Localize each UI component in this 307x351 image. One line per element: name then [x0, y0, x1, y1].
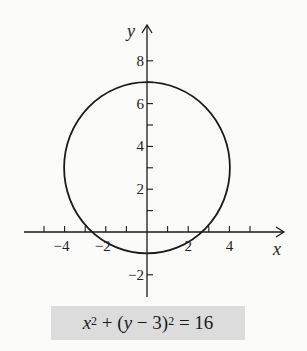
y-axis-label: y [125, 21, 135, 41]
equation-exp2: 2 [168, 314, 174, 329]
y-tick-label: 2 [137, 181, 145, 197]
equation-plus: + ( [97, 312, 124, 334]
y-tick-label: 4 [137, 138, 145, 154]
y-tick-label: 6 [137, 96, 145, 112]
chart: −4−2248642−2xy [0, 0, 307, 351]
x-tick-label: −4 [54, 238, 70, 254]
y-tick-label: 8 [137, 53, 145, 69]
equation-label: x2 + (y − 3)2 = 16 [51, 306, 245, 340]
equation-x: x [83, 312, 91, 334]
x-axis-label: x [272, 239, 281, 259]
equation-exp1: 2 [91, 314, 97, 329]
x-tick-label: 4 [226, 238, 234, 254]
equation-minus: − 3) [132, 312, 168, 334]
equation-y: y [124, 312, 132, 334]
y-tick-label: −2 [128, 267, 144, 283]
equation-rhs: = 16 [174, 312, 213, 334]
